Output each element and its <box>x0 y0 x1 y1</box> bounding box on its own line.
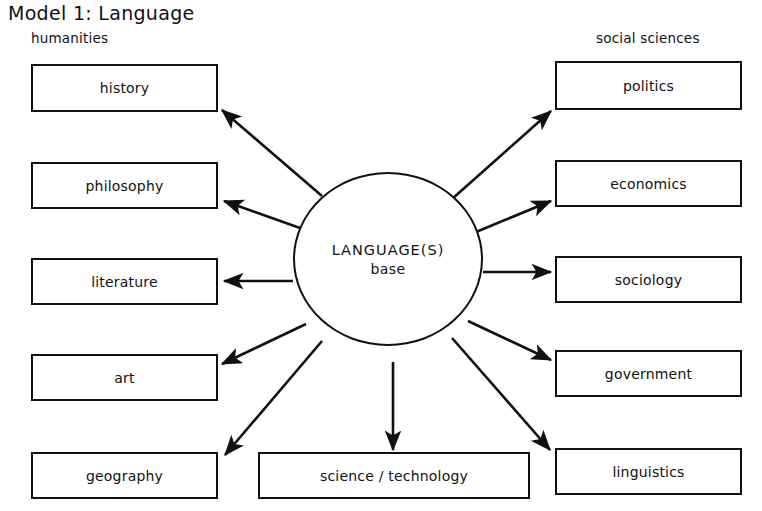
node-label-science-technology: science / technology <box>320 468 468 484</box>
node-box-geography[interactable]: geography <box>31 452 218 499</box>
node-label-geography: geography <box>86 468 163 484</box>
node-box-science-technology[interactable]: science / technology <box>258 452 530 499</box>
node-box-politics[interactable]: politics <box>555 61 742 110</box>
node-label-sociology: sociology <box>615 272 682 288</box>
node-box-philosophy[interactable]: philosophy <box>31 162 218 209</box>
node-label-politics: politics <box>623 78 674 94</box>
arrow-to-economics <box>476 201 551 232</box>
node-box-linguistics[interactable]: linguistics <box>555 448 742 495</box>
node-box-literature[interactable]: literature <box>31 258 218 305</box>
node-label-art: art <box>114 370 134 386</box>
node-box-history[interactable]: history <box>31 64 218 112</box>
hub-primary-label: LANGUAGE(S) <box>332 242 445 258</box>
node-box-economics[interactable]: economics <box>555 160 742 207</box>
arrow-to-art <box>222 324 306 364</box>
hub-language-base[interactable]: LANGUAGE(S) base <box>293 172 483 346</box>
node-label-linguistics: linguistics <box>612 464 684 480</box>
diagram-canvas: Model 1: Language humanities social scie… <box>0 0 762 511</box>
arrow-to-linguistics <box>452 338 550 450</box>
node-box-sociology[interactable]: sociology <box>555 256 742 303</box>
arrow-to-politics <box>452 111 551 199</box>
node-label-literature: literature <box>91 274 158 290</box>
node-label-economics: economics <box>610 176 687 192</box>
arrow-to-philosophy <box>224 201 300 228</box>
arrow-to-government <box>468 321 551 360</box>
node-label-philosophy: philosophy <box>85 178 163 194</box>
arrow-to-history <box>222 110 322 196</box>
hub-secondary-label: base <box>371 261 406 277</box>
node-box-art[interactable]: art <box>31 354 218 401</box>
node-label-history: history <box>100 80 150 96</box>
node-box-government[interactable]: government <box>555 350 742 397</box>
node-label-government: government <box>605 366 692 382</box>
arrow-to-geography <box>225 341 322 455</box>
